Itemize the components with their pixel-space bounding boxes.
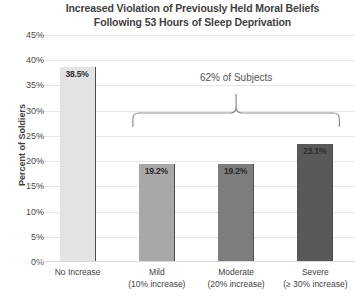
y-axis-tick-label: 45% <box>4 30 44 40</box>
y-axis-tick-label: 40% <box>4 55 44 65</box>
chart-title-line-1: Increased Violation of Previously Held M… <box>30 2 355 16</box>
bar-value-label: 23.1% <box>297 146 332 156</box>
category-sublabel: (≥ 30% increase) <box>255 278 363 290</box>
plot-area: 45%40%35%30%25%20%15%10%5%0%38.5%19.2%19… <box>38 35 355 262</box>
bar-chart: Increased Violation of Previously Held M… <box>0 0 363 296</box>
bar-value-label: 19.2% <box>218 166 253 176</box>
bar-value-label: 38.5% <box>60 69 95 79</box>
x-axis-category-label: Severe(≥ 30% increase) <box>255 266 363 290</box>
bar-mild: 19.2% <box>139 164 175 261</box>
gridline <box>38 60 355 61</box>
x-axis-line <box>38 261 355 262</box>
y-axis-tick-label: 10% <box>4 207 44 217</box>
y-axis-title: Percent of Soldiers <box>17 75 27 215</box>
gridline <box>38 35 355 36</box>
y-axis-tick-label: 15% <box>4 181 44 191</box>
y-axis-tick-label: 30% <box>4 106 44 116</box>
y-axis-tick-label: 25% <box>4 131 44 141</box>
annotation-label: 62% of Subjects <box>156 72 316 83</box>
bar-no-increase: 38.5% <box>60 67 96 261</box>
chart-title-line-2: Following 53 Hours of Sleep Deprivation <box>30 16 355 30</box>
y-axis-tick-label: 20% <box>4 156 44 166</box>
y-axis-tick-label: 5% <box>4 232 44 242</box>
category-name: Severe <box>255 266 363 278</box>
bar-severe: 23.1% <box>297 144 333 261</box>
bar-moderate: 19.2% <box>218 164 254 261</box>
y-axis-tick-label: 35% <box>4 80 44 90</box>
bar-value-label: 19.2% <box>139 166 174 176</box>
chart-title: Increased Violation of Previously Held M… <box>30 2 355 29</box>
